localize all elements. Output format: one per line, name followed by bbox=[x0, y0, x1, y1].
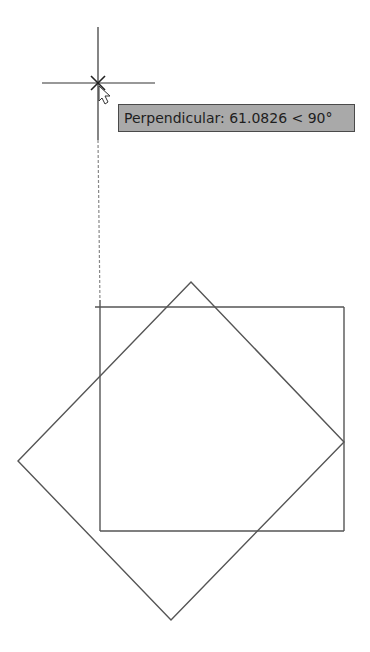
perpendicular-tracking-line bbox=[98, 140, 100, 306]
cad-drawing-area[interactable] bbox=[0, 0, 370, 652]
tooltip-text: Perpendicular: 61.0826 < 90° bbox=[124, 110, 333, 126]
drawing-canvas[interactable]: Perpendicular: 61.0826 < 90° bbox=[0, 0, 370, 652]
rotated-square-shape[interactable] bbox=[18, 282, 344, 620]
snap-tooltip: Perpendicular: 61.0826 < 90° bbox=[118, 104, 355, 132]
rectangle-shape[interactable] bbox=[95, 300, 344, 531]
